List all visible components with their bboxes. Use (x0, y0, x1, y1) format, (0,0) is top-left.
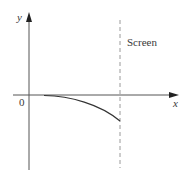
origin-label: 0 (19, 96, 25, 108)
y-axis-label: y (16, 11, 22, 23)
y-axis-arrowhead-icon (26, 12, 32, 22)
trajectory-curve (44, 96, 120, 122)
screen-label: Screen (127, 36, 157, 48)
trajectory-diagram: y 0 x Screen (0, 0, 190, 179)
x-axis-label: x (172, 97, 178, 109)
